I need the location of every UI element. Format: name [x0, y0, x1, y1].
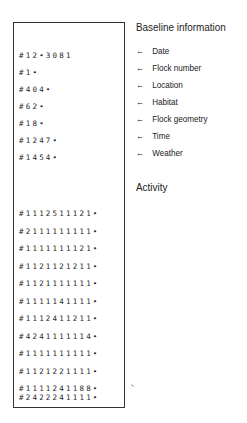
- activity-record: #1111241188•: [19, 384, 100, 393]
- activity-record: #1121121211•: [19, 262, 100, 271]
- arrow-left-icon: ←: [136, 63, 147, 73]
- activity-record: #1112411211•: [19, 314, 100, 323]
- activity-record: #2422241111•: [19, 393, 100, 402]
- baseline-record-date: #12•3081: [19, 51, 73, 60]
- activity-heading: Activity: [136, 181, 167, 193]
- stray-mark: [131, 384, 134, 387]
- arrow-left-icon: ←: [136, 46, 147, 56]
- arrow-left-icon: ←: [136, 97, 147, 107]
- label-date: ←Date: [136, 46, 169, 56]
- activity-record: #1111111111•: [19, 349, 100, 358]
- label-time: ←Time: [136, 131, 170, 141]
- label-flock-number: ←Flock number: [136, 63, 201, 73]
- baseline-record-flock-geometry: #18•: [19, 119, 46, 128]
- baseline-record-habitat: #62•: [19, 102, 46, 111]
- baseline-record-time: #1247•: [19, 136, 59, 145]
- activity-record: #1121111111•: [19, 279, 100, 288]
- arrow-left-icon: ←: [136, 148, 147, 158]
- activity-record: #1111141111•: [19, 297, 100, 306]
- activity-record: #1111111121•: [19, 244, 100, 253]
- baseline-heading: Baseline information: [136, 21, 226, 33]
- activity-record: #4241111114•: [19, 332, 100, 341]
- label-weather: ←Weather: [136, 148, 183, 158]
- label-location: ←Location: [136, 80, 183, 90]
- activity-record: #1112511121•: [19, 209, 100, 218]
- label-habitat: ←Habitat: [136, 97, 178, 107]
- arrow-left-icon: ←: [136, 131, 147, 141]
- activity-record: #2111111111•: [19, 227, 100, 236]
- baseline-record-flock-number: #1•: [19, 68, 39, 77]
- baseline-record-location: #404•: [19, 85, 53, 94]
- activity-record: #1121221111•: [19, 367, 100, 376]
- arrow-left-icon: ←: [136, 114, 147, 124]
- label-flock-geometry: ←Flock geometry: [136, 114, 208, 124]
- baseline-record-weather: #1454•: [19, 153, 59, 162]
- arrow-left-icon: ←: [136, 80, 147, 90]
